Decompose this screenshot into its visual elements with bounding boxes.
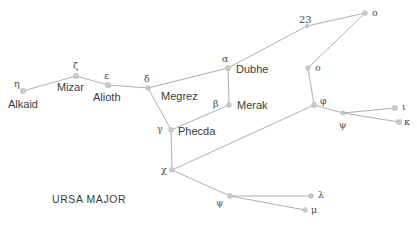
star-marker-psi[interactable] [228, 194, 233, 199]
label-iota: ι [402, 102, 406, 112]
star-marker-iota[interactable] [393, 106, 397, 110]
star-markers-layer [21, 11, 401, 213]
label-chi: χ [161, 165, 167, 175]
constellation-line-chi-psi [172, 170, 230, 196]
star-marker-upsilon[interactable] [341, 111, 345, 115]
star-marker-kappa[interactable] [397, 120, 401, 124]
label-kappa: κ [404, 117, 410, 127]
constellation-line-star23-omicron1 [307, 13, 365, 26]
star-marker-lambda[interactable] [309, 194, 314, 199]
label-constell: URSA MAJOR [52, 194, 126, 205]
label-23: 23 [299, 15, 312, 25]
star-marker-eta[interactable] [21, 89, 25, 93]
label-megrez: Megrez [161, 91, 198, 102]
constellation-line-upsilon-iota [343, 108, 395, 113]
constellation-line-upsilon-kappa [343, 113, 399, 122]
label-upsilon: ψ [339, 120, 346, 130]
constellation-line-alpha-star23 [228, 26, 307, 68]
constellation-line-omicron1-omicron2 [308, 13, 365, 68]
label-mu: μ [311, 205, 317, 215]
label-phecda: Phecda [178, 126, 215, 137]
star-marker-omicron1[interactable] [363, 11, 368, 16]
star-marker-delta[interactable] [146, 86, 151, 91]
constellation-line-alpha-beta [228, 68, 229, 105]
constellation-line-phi-chi [172, 105, 314, 170]
label-omicron2: o [315, 63, 321, 73]
star-marker-phi[interactable] [311, 102, 316, 107]
label-gamma: γ [157, 124, 163, 134]
constellation-line-delta-alpha [148, 68, 228, 88]
star-marker-chi[interactable] [170, 168, 175, 173]
label-merak: Merak [237, 100, 268, 111]
star-marker-mu[interactable] [303, 208, 308, 213]
label-psi: ψ [216, 198, 223, 208]
label-epsilon: ε [104, 71, 109, 81]
star-marker-zeta[interactable] [74, 74, 78, 78]
label-dubhe: Dubhe [236, 64, 268, 75]
constellation-line-epsilon-delta [108, 85, 148, 88]
label-alkaid: Alkaid [8, 99, 38, 110]
label-alpha: α [222, 54, 228, 64]
star-marker-epsilon[interactable] [106, 83, 110, 87]
label-zeta: ζ [73, 61, 78, 71]
star-marker-omicron2[interactable] [306, 66, 311, 71]
constellation-line-gamma-chi [171, 130, 172, 170]
constellation-line-omicron2-phi [308, 68, 314, 105]
label-delta: δ [144, 74, 150, 84]
label-eta: η [14, 79, 20, 89]
constellation-line-psi-mu [230, 196, 305, 210]
star-marker-beta[interactable] [227, 103, 232, 108]
ursa-major-star-chart: ηAlkaidζMizarεAliothδMegrezαDubheβMerakγ… [0, 0, 417, 227]
star-marker-alpha[interactable] [225, 65, 230, 70]
star-marker-gamma[interactable] [169, 128, 174, 133]
label-alioth: Alioth [93, 92, 121, 103]
label-lambda: λ [318, 190, 324, 200]
label-mizar: Mizar [57, 82, 84, 93]
label-beta: β [213, 99, 219, 109]
label-phi: φ [320, 96, 327, 106]
constellation-line-phi-upsilon [314, 105, 343, 113]
label-omicron1: o [372, 8, 378, 18]
